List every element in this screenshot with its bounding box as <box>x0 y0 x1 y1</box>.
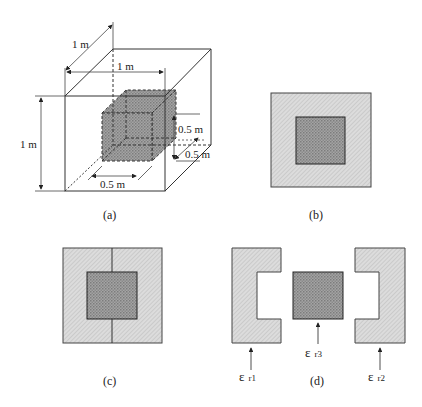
region-left <box>232 248 281 343</box>
label-eps-r3: εr3 <box>305 345 322 360</box>
dim-outer-depth: 1 m <box>72 38 89 50</box>
dim-inner-depth: 0.5 m <box>185 148 211 160</box>
dim-outer-height: 1 m <box>20 138 37 150</box>
panel-a-cube <box>35 22 211 191</box>
region-center <box>293 272 343 319</box>
dim-inner-height: 0.5 m <box>178 123 204 135</box>
caption-a: (a) <box>103 208 116 222</box>
figure-canvas: 1 m 1 m 1 m 0.5 m 0.5 m 0.5 m (a) (b) (c… <box>0 0 422 407</box>
dim-inner-width: 0.5 m <box>100 178 126 190</box>
caption-d: (d) <box>310 374 324 388</box>
caption-c: (c) <box>103 374 116 388</box>
dim-outer-width: 1 m <box>117 60 134 72</box>
panel-d-exploded: εr1 εr3 εr2 (d) <box>232 248 405 388</box>
inner-region <box>296 117 345 164</box>
inner-region <box>87 272 137 319</box>
region-right <box>355 248 405 343</box>
panel-b-cross-section: (b) <box>271 93 371 222</box>
label-eps-r2: εr2 <box>368 369 385 384</box>
caption-b: (b) <box>309 208 323 222</box>
label-eps-r1: εr1 <box>239 369 256 384</box>
panel-c-split-section: (c) <box>63 248 162 388</box>
